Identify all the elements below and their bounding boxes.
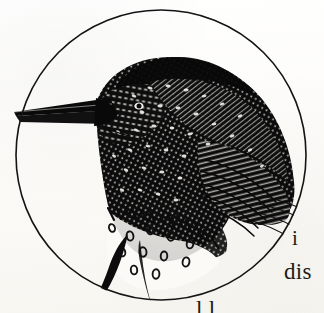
text-fragment-bottom: l l (196, 298, 215, 313)
bird-eye-pupil (137, 104, 142, 109)
starling-illustration (0, 0, 324, 313)
scanned-page: i dis l l (0, 0, 324, 313)
text-fragment-i: i (292, 228, 298, 249)
bird-body-group (88, 57, 300, 312)
bird-shading (96, 57, 294, 261)
starling-engraving-svg (0, 0, 324, 313)
text-fragment-dis: dis (284, 260, 312, 283)
